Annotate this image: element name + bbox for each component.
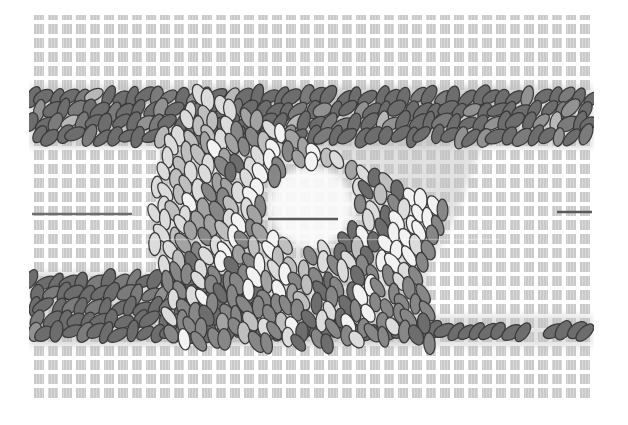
figure-canvas [0,0,628,425]
particle [149,233,161,256]
particle-layer [0,0,628,425]
particle [268,164,281,187]
particle [305,152,318,171]
figure-content [21,82,603,355]
particle [217,328,231,350]
top-band-particles [22,82,604,151]
